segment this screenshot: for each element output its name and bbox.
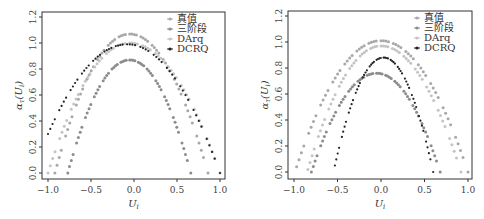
data-point xyxy=(184,103,187,106)
data-point xyxy=(351,54,354,57)
data-point xyxy=(437,96,440,99)
data-point xyxy=(387,40,390,43)
x-tick-label: 1.0 xyxy=(461,185,476,195)
legend-label: DCRQ xyxy=(424,42,455,53)
data-point xyxy=(404,92,407,95)
data-point xyxy=(58,109,60,111)
data-point xyxy=(314,160,317,163)
data-point xyxy=(354,59,357,62)
data-point xyxy=(426,146,428,148)
data-point xyxy=(418,115,420,117)
x-tick-label: −0.5 xyxy=(327,185,349,195)
data-point xyxy=(70,89,72,91)
data-point xyxy=(444,125,447,128)
data-point xyxy=(207,172,210,175)
data-point xyxy=(319,144,322,147)
data-point xyxy=(56,164,59,167)
data-point xyxy=(75,103,78,106)
data-point xyxy=(97,56,99,58)
data-point xyxy=(334,164,336,166)
x-tick-label: 0.5 xyxy=(170,185,185,195)
data-point xyxy=(319,104,322,107)
data-point xyxy=(330,118,333,121)
data-point xyxy=(295,165,298,168)
data-point xyxy=(353,83,356,86)
data-point xyxy=(432,99,435,102)
legend-marker-icon xyxy=(415,36,418,39)
data-point xyxy=(169,70,171,72)
data-point xyxy=(139,46,141,48)
data-point xyxy=(435,160,438,163)
data-point xyxy=(402,55,405,58)
data-point xyxy=(402,90,405,93)
data-point xyxy=(369,65,371,67)
data-point xyxy=(83,70,85,72)
data-point xyxy=(321,123,324,126)
data-point xyxy=(432,87,435,90)
data-point xyxy=(147,50,149,52)
data-point xyxy=(126,43,128,45)
data-point xyxy=(359,82,361,84)
data-point xyxy=(355,50,358,53)
data-point xyxy=(309,161,312,164)
data-point xyxy=(186,159,189,162)
data-point xyxy=(66,128,69,131)
data-point xyxy=(335,158,337,160)
data-point xyxy=(365,49,368,52)
data-point xyxy=(136,43,139,46)
data-point xyxy=(386,45,389,48)
y-tick-label: 0.2 xyxy=(28,140,38,154)
data-point xyxy=(316,154,319,157)
data-point xyxy=(313,148,316,151)
data-point xyxy=(92,60,94,62)
data-point xyxy=(179,85,181,87)
data-point xyxy=(168,107,171,110)
data-point xyxy=(133,59,136,62)
data-point xyxy=(58,156,61,159)
data-point xyxy=(407,52,410,55)
data-point xyxy=(158,58,160,60)
data-point xyxy=(447,117,450,120)
data-point xyxy=(106,49,108,51)
data-point xyxy=(334,76,337,79)
data-point xyxy=(390,77,393,80)
data-point xyxy=(364,71,366,73)
x-tick-label: −1.0 xyxy=(283,185,305,195)
data-point xyxy=(421,125,423,127)
data-point xyxy=(157,52,160,55)
data-point xyxy=(399,46,402,49)
data-point xyxy=(117,44,119,46)
legend: 真值三阶段DArqDCRQ xyxy=(167,12,208,54)
data-point xyxy=(96,88,99,91)
data-point xyxy=(167,103,170,106)
data-point xyxy=(182,147,185,150)
x-tick-label: −0.5 xyxy=(80,185,102,195)
series-三阶段 xyxy=(66,58,192,174)
data-point xyxy=(314,114,317,117)
data-point xyxy=(430,94,433,97)
y-axis-label: ατ(Ui) xyxy=(13,81,26,110)
data-point xyxy=(348,112,350,114)
y-tick-label: 0.8 xyxy=(28,62,38,77)
data-point xyxy=(407,59,410,62)
data-point xyxy=(70,108,73,111)
data-point xyxy=(341,136,343,138)
data-point xyxy=(171,74,173,76)
data-point xyxy=(312,165,315,168)
data-point xyxy=(366,69,368,71)
data-point xyxy=(77,93,80,96)
legend-marker-icon xyxy=(168,37,171,40)
data-point xyxy=(441,119,444,122)
data-point xyxy=(323,118,326,121)
data-point xyxy=(425,86,428,89)
data-point xyxy=(375,40,378,43)
data-point xyxy=(325,131,328,134)
data-point xyxy=(387,57,389,59)
data-point xyxy=(113,38,116,41)
data-point xyxy=(103,77,106,80)
data-point xyxy=(417,63,420,66)
data-point xyxy=(172,116,175,119)
data-point xyxy=(342,131,344,133)
data-point xyxy=(198,120,200,122)
data-point xyxy=(219,172,221,174)
